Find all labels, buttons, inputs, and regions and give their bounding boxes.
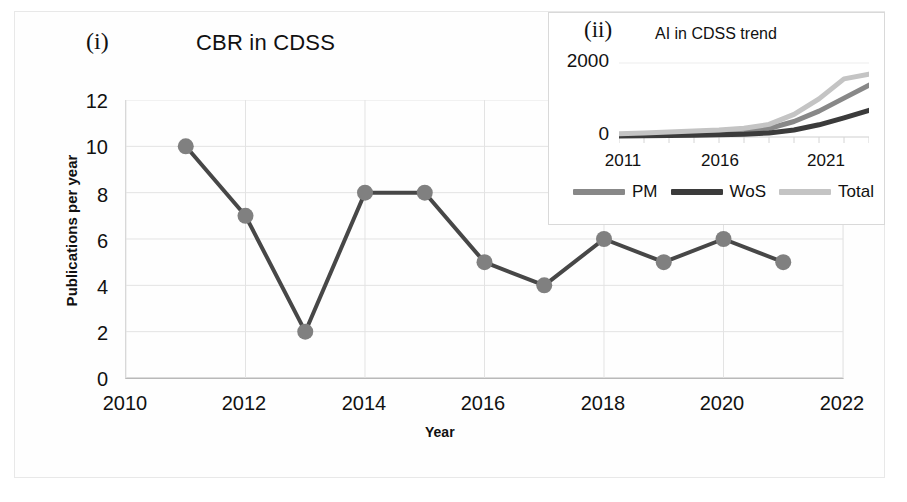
data-point [596,231,612,247]
data-point [775,254,791,270]
legend-item-total: Total [779,182,874,202]
data-point [238,208,254,224]
y-axis-tick-group: 0 2 4 6 8 10 12 [62,0,108,502]
inset-series-svg [619,59,869,154]
panel-label-ii: (ii) [584,17,612,43]
data-point [656,254,672,270]
y-tick-12: 12 [62,90,108,113]
legend-label-wos: WoS [730,182,767,202]
y-tick-6: 6 [62,230,108,253]
x-tick-2018: 2018 [558,392,648,415]
inset-x-tick-2021: 2021 [791,151,861,171]
inset-y-tick-2000: 2000 [549,50,609,72]
x-tick-2014: 2014 [319,392,409,415]
legend-item-wos: WoS [671,182,767,202]
inset-legend: PM WoS Total [573,180,873,204]
inset-chart: (ii) AI in CDSS trend 2000 0 2011 2016 2… [548,12,885,225]
y-tick-8: 8 [62,184,108,207]
data-point [716,231,732,247]
y-tick-4: 4 [62,276,108,299]
figure-canvas: (i) CBR in CDSS Publications per year Ye… [0,0,907,502]
x-tick-2016: 2016 [438,392,528,415]
data-point [178,138,194,154]
legend-item-pm: PM [573,182,658,202]
inset-y-tick-0: 0 [549,123,609,145]
x-tick-2020: 2020 [677,392,767,415]
inset-x-tick-2011: 2011 [588,151,658,171]
y-tick-10: 10 [62,136,108,159]
legend-swatch-pm [573,189,625,195]
inset-x-tick-2016: 2016 [685,151,755,171]
y-tick-0: 0 [62,368,108,391]
x-tick-2010: 2010 [80,392,170,415]
legend-label-total: Total [838,182,874,202]
inset-title: AI in CDSS trend [655,25,777,43]
x-axis-title: Year [425,424,455,440]
legend-swatch-total [779,189,831,195]
data-point [357,185,373,201]
x-tick-2012: 2012 [199,392,289,415]
legend-label-pm: PM [632,182,658,202]
data-point [297,324,313,340]
legend-swatch-wos [671,189,723,195]
data-point [417,185,433,201]
data-point [477,254,493,270]
data-point [536,277,552,293]
y-tick-2: 2 [62,322,108,345]
inset-series-lines [619,74,869,136]
x-tick-2022: 2022 [797,392,887,415]
chart-title: CBR in CDSS [196,30,335,56]
